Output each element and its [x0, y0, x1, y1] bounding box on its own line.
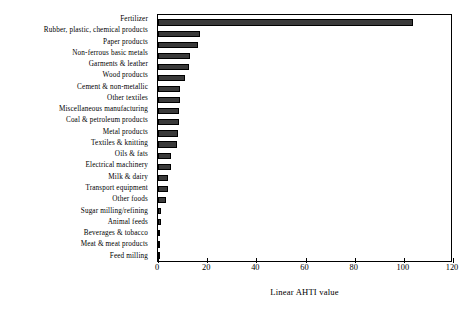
- category-label: Fertilizer: [0, 14, 152, 25]
- bar: [158, 130, 178, 136]
- category-label: Textiles & knitting: [0, 138, 152, 149]
- category-label: Transport equipment: [0, 183, 152, 194]
- bar: [158, 97, 180, 103]
- x-axis-tick-label: 40: [251, 264, 259, 272]
- category-label: Miscellaneous manufacturing: [0, 104, 152, 115]
- x-axis-tick-labels: 020406080100120: [157, 264, 452, 276]
- bar: [158, 64, 189, 70]
- bar: [158, 175, 168, 181]
- category-axis-labels: FertilizerRubber, plastic, chemical prod…: [0, 14, 152, 262]
- bar-row: [158, 72, 451, 83]
- bar: [158, 153, 171, 159]
- category-label: Paper products: [0, 37, 152, 48]
- category-label: Rubber, plastic, chemical products: [0, 25, 152, 36]
- x-axis-tick-label: 20: [202, 264, 210, 272]
- category-label: Wood products: [0, 70, 152, 81]
- chart-figure: FertilizerRubber, plastic, chemical prod…: [0, 0, 476, 316]
- plot-area: [157, 14, 452, 262]
- x-axis-tick-label: 60: [300, 264, 308, 272]
- bar-row: [158, 161, 451, 172]
- bar: [158, 86, 180, 92]
- bar: [158, 75, 185, 81]
- category-label: Animal feeds: [0, 217, 152, 228]
- category-label: Cement & non-metallic: [0, 82, 152, 93]
- bar-row: [158, 50, 451, 61]
- bar: [158, 164, 171, 170]
- bar-row: [158, 195, 451, 206]
- bar-row: [158, 61, 451, 72]
- bar: [158, 53, 190, 59]
- bar: [158, 108, 179, 114]
- bar-row: [158, 28, 451, 39]
- x-axis-tick-label: 0: [155, 264, 159, 272]
- x-axis-tick-label: 100: [397, 264, 410, 272]
- bar-row: [158, 84, 451, 95]
- bar-row: [158, 128, 451, 139]
- x-axis-tick-label: 80: [349, 264, 357, 272]
- category-label: Meat & meat products: [0, 239, 152, 250]
- bar: [158, 241, 160, 247]
- category-label: Other foods: [0, 194, 152, 205]
- bar-row: [158, 228, 451, 239]
- category-label: Garments & leather: [0, 59, 152, 70]
- category-label: Beverages & tobacco: [0, 228, 152, 239]
- bar-row: [158, 95, 451, 106]
- bar-row: [158, 172, 451, 183]
- bar-row: [158, 217, 451, 228]
- bar: [158, 186, 168, 192]
- bar-row: [158, 139, 451, 150]
- bar-row: [158, 117, 451, 128]
- bar-row: [158, 150, 451, 161]
- bar: [158, 141, 177, 147]
- category-label: Other textiles: [0, 93, 152, 104]
- bar-row: [158, 106, 451, 117]
- category-label: Electrical machinery: [0, 160, 152, 171]
- bar: [158, 197, 166, 203]
- bar-row: [158, 250, 451, 261]
- bar-row: [158, 183, 451, 194]
- bar: [158, 119, 179, 125]
- bar: [158, 42, 198, 48]
- bar-series: [158, 17, 451, 261]
- category-label: Oils & fats: [0, 149, 152, 160]
- bar: [158, 31, 200, 37]
- category-label: Sugar milling/refining: [0, 206, 152, 217]
- category-label: Feed milling: [0, 251, 152, 262]
- category-label: Milk & dairy: [0, 172, 152, 183]
- bar: [158, 230, 160, 236]
- x-axis-title: Linear AHTI value: [157, 287, 452, 297]
- bar-row: [158, 17, 451, 28]
- bar-row: [158, 39, 451, 50]
- category-label: Non-ferrous basic metals: [0, 48, 152, 59]
- x-axis-tick-label: 120: [446, 264, 459, 272]
- bar-row: [158, 206, 451, 217]
- bar-row: [158, 239, 451, 250]
- category-label: Metal products: [0, 127, 152, 138]
- bar: [158, 19, 413, 25]
- bar: [158, 208, 161, 214]
- category-label: Coal & petroleum products: [0, 115, 152, 126]
- bar: [158, 219, 161, 225]
